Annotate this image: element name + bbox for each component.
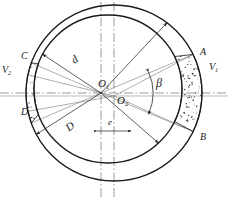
stipple-dot xyxy=(176,45,177,46)
stipple-dot xyxy=(150,100,151,101)
stipple-dot xyxy=(176,100,178,102)
stipple-dot xyxy=(225,134,226,135)
stipple-dot xyxy=(207,44,209,46)
stipple-dot xyxy=(178,137,179,138)
stipple-dot xyxy=(167,110,169,112)
stipple-dot xyxy=(151,120,152,121)
stipple-dot xyxy=(44,110,45,111)
stipple-dot xyxy=(158,99,159,100)
stipple-dot xyxy=(220,44,221,45)
stipple-dot xyxy=(213,50,215,52)
stipple-dot xyxy=(199,88,200,89)
stipple-dot xyxy=(155,63,157,65)
stipple-dot xyxy=(188,96,189,97)
stipple-dot xyxy=(185,154,186,155)
stipple-dot xyxy=(189,95,190,96)
stipple-dot xyxy=(181,118,182,119)
stipple-dot xyxy=(154,111,155,112)
stipple-dot xyxy=(25,68,26,69)
stipple-dot xyxy=(30,106,31,107)
stipple-dot xyxy=(194,105,195,106)
stipple-dot xyxy=(210,124,212,126)
stipple-dot xyxy=(46,75,47,76)
stipple-dot xyxy=(216,98,217,99)
stipple-dot xyxy=(198,90,199,91)
stipple-dot xyxy=(157,129,158,130)
stipple-dot xyxy=(47,50,48,51)
stipple-dot xyxy=(161,103,162,104)
stipple-dot xyxy=(161,115,162,116)
stipple-dot xyxy=(193,139,194,140)
stipple-dot xyxy=(214,145,215,146)
stipple-dot xyxy=(169,155,170,156)
stipple-dot xyxy=(35,55,36,56)
stipple-dot xyxy=(226,118,227,119)
stipple-dot xyxy=(24,73,25,74)
stipple-dot xyxy=(187,97,188,98)
stipple-dot xyxy=(178,47,179,48)
stipple-dot xyxy=(180,31,181,32)
stipple-dot xyxy=(181,39,183,41)
stipple-dot xyxy=(166,137,167,138)
stipple-dot xyxy=(161,119,162,120)
stipple-dot xyxy=(198,30,199,31)
stipple-dot xyxy=(192,118,193,119)
stipple-dot xyxy=(193,45,194,46)
stipple-dot xyxy=(211,158,212,159)
stipple-dot xyxy=(214,133,215,134)
stipple-dot xyxy=(225,30,226,31)
label-point-a: A xyxy=(200,47,206,57)
stipple-dot xyxy=(209,57,210,58)
stipple-dot xyxy=(187,120,188,121)
stipple-dot xyxy=(213,155,214,156)
stipple-dot xyxy=(207,86,208,87)
stipple-dot xyxy=(222,141,223,142)
stipple-dot xyxy=(217,103,218,104)
stipple-dot xyxy=(163,81,164,82)
stipple-dot xyxy=(159,69,160,70)
stipple-dot xyxy=(175,90,176,91)
stipple-dot xyxy=(162,103,163,104)
stipple-dot xyxy=(165,83,166,84)
stipple-dot xyxy=(160,124,161,125)
stipple-dot xyxy=(179,48,180,49)
stipple-dot xyxy=(165,129,166,130)
stipple-dot xyxy=(222,34,224,36)
stipple-dot xyxy=(194,75,195,76)
stipple-dot xyxy=(31,59,32,60)
stipple-dot xyxy=(160,132,161,133)
stipple-dot xyxy=(156,148,157,149)
stipple-dot xyxy=(167,137,169,139)
stipple-dot xyxy=(175,100,177,102)
stipple-dot xyxy=(227,42,228,43)
stipple-dot xyxy=(197,33,199,35)
stipple-dot xyxy=(160,61,161,62)
stipple-dot xyxy=(161,110,162,111)
stipple-dot xyxy=(208,143,209,144)
stipple-dot xyxy=(174,75,176,77)
stipple-dot xyxy=(167,69,168,70)
stipple-dot xyxy=(165,137,166,138)
stipple-dot xyxy=(151,55,152,56)
stipple-dot xyxy=(209,54,210,55)
stipple-dot xyxy=(166,53,167,54)
stipple-dot xyxy=(182,134,183,135)
stipple-dot xyxy=(151,153,152,154)
stipple-dot xyxy=(23,69,24,70)
stipple-dot xyxy=(220,111,222,113)
stipple-dot xyxy=(172,37,173,38)
stipple-dot xyxy=(41,68,42,69)
stipple-dot xyxy=(224,62,226,64)
stipple-dot xyxy=(151,90,152,91)
stipple-dot xyxy=(223,118,224,119)
stipple-dot xyxy=(202,116,203,117)
stipple-dot xyxy=(209,97,210,98)
stipple-dot xyxy=(187,51,188,52)
stipple-dot xyxy=(187,48,188,49)
stipple-dot xyxy=(221,52,222,53)
stipple-dot xyxy=(154,72,155,73)
stipple-dot xyxy=(155,66,156,67)
stipple-dot xyxy=(179,82,180,83)
stipple-dot xyxy=(159,133,161,135)
stipple-dot xyxy=(223,90,224,91)
